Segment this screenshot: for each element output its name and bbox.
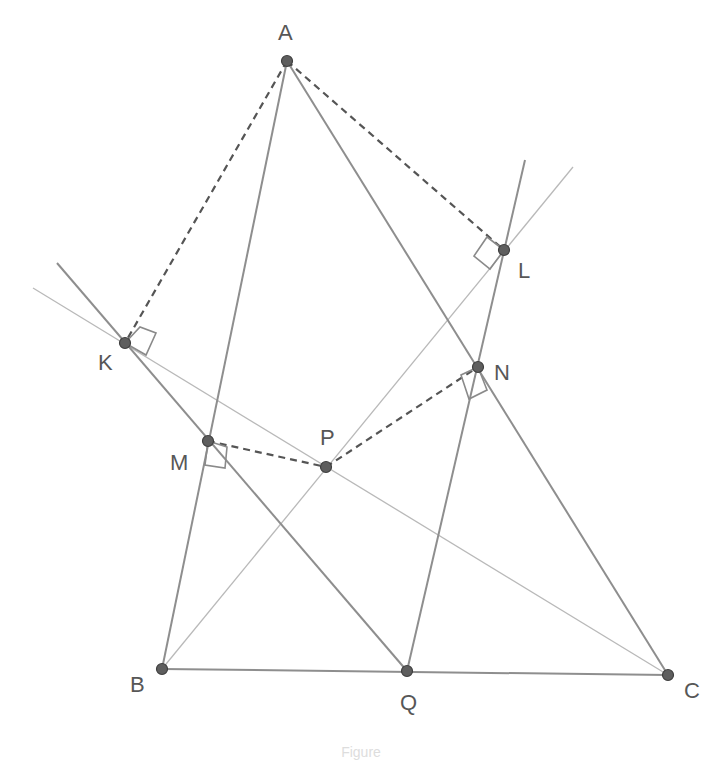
- side-AB: [162, 61, 287, 669]
- label-k: K: [98, 350, 113, 375]
- point-c[interactable]: [663, 670, 674, 681]
- point-a[interactable]: [282, 56, 293, 67]
- right-angle-marks: [125, 237, 504, 468]
- label-b: B: [130, 672, 145, 697]
- point-n[interactable]: [473, 362, 484, 373]
- label-a: A: [278, 20, 293, 45]
- label-q: Q: [400, 690, 417, 715]
- label-p: P: [320, 425, 335, 450]
- perp-AL: [287, 61, 504, 250]
- figure-caption: Figure: [0, 744, 722, 760]
- side-BC: [162, 669, 668, 675]
- point-q[interactable]: [402, 666, 413, 677]
- perp-AK: [125, 61, 287, 343]
- thin-lines: [33, 167, 668, 675]
- points: [120, 56, 674, 681]
- point-labels: ABCQKLMNP: [98, 20, 700, 715]
- label-n: N: [494, 360, 510, 385]
- dashed-lines: [125, 61, 504, 467]
- label-c: C: [684, 678, 700, 703]
- label-l: L: [518, 258, 530, 283]
- segment-PN: [326, 367, 478, 467]
- label-m: M: [170, 450, 188, 475]
- line-BL: [162, 167, 573, 669]
- point-k[interactable]: [120, 338, 131, 349]
- point-m[interactable]: [203, 436, 214, 447]
- thick-lines: [57, 61, 668, 675]
- point-p[interactable]: [321, 462, 332, 473]
- point-b[interactable]: [157, 664, 168, 675]
- point-l[interactable]: [499, 245, 510, 256]
